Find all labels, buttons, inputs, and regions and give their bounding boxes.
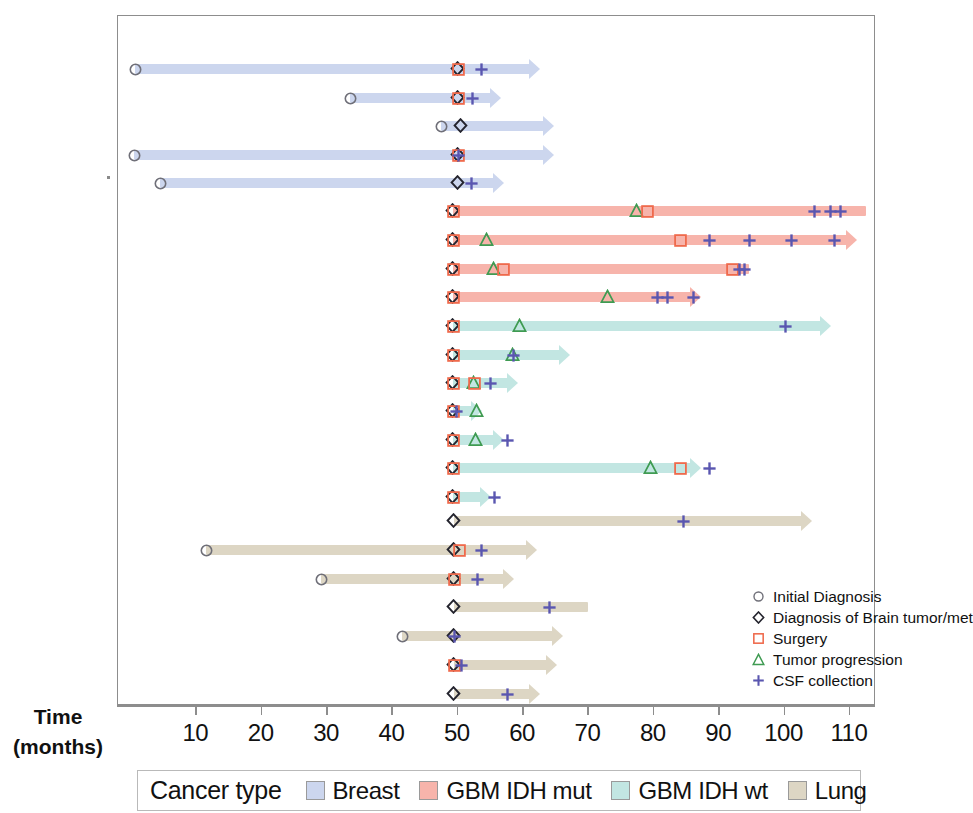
csf-collection-marker [464,176,479,191]
diamond-icon [749,611,768,624]
event-legend-label: CSF collection [773,672,873,690]
cancer-type-label: GBM IDH wt [638,777,767,805]
cancer-type-legend-item: Breast [306,777,400,805]
cancer-type-swatch [788,781,807,800]
csf-collection-marker [737,262,752,277]
swimmer-bar-arrowhead [559,345,570,365]
x-axis-tick [784,705,786,715]
event-legend-item: Diagnosis of Brain tumor/met [749,607,973,628]
swimmer-bar-arrowhead [526,540,537,560]
x-axis-tick-label: 100 [764,719,803,747]
swimmer-row [118,259,874,279]
event-legend-label: Diagnosis of Brain tumor/met [773,609,973,627]
surgery-marker [452,543,467,558]
surgery-marker [446,290,461,305]
initial-diagnosis-marker [314,572,329,587]
swimmer-bar-arrowhead [507,373,518,393]
axis-title: Time (months) [2,702,114,762]
tumor-progression-marker [600,289,615,304]
csf-collection-marker [451,148,466,163]
swimmer-bar-arrowhead [846,230,857,250]
event-legend-label: Initial Diagnosis [773,588,882,606]
swimmer-bar-arrowhead [820,316,831,336]
plus-icon [749,674,768,687]
tumor-progression-marker [512,318,527,333]
initial-diagnosis-marker [153,176,168,191]
event-legend: Initial DiagnosisDiagnosis of Brain tumo… [749,586,973,691]
surgery-marker [446,376,461,391]
swimmer-bar [135,64,531,74]
swimmer-bar [402,631,553,641]
cancer-type-legend-item: Lung [788,777,867,805]
swimmer-plot-panel: Initial DiagnosisDiagnosis of Brain tumo… [117,15,875,705]
swimmer-row [118,345,874,365]
cancer-type-label: Breast [333,777,400,805]
swimmer-bar-arrowhead [503,569,514,589]
csf-collection-marker [449,404,464,419]
swimmer-row [118,373,874,393]
csf-collection-marker [660,290,675,305]
x-axis-tick-label: 70 [575,719,601,747]
csf-collection-marker [784,233,799,248]
cancer-type-legend: Cancer type BreastGBM IDH mutGBM IDH wtL… [137,770,861,811]
brain-diagnosis-marker [453,118,468,133]
swimmer-row [118,116,874,136]
x-axis-tick-label: 20 [248,719,274,747]
surgery-marker [446,433,461,448]
swimmer-bar-arrowhead [543,116,554,136]
swimmer-bar-arrowhead [543,145,554,165]
swimmer-bar-arrowhead [490,88,501,108]
swimmer-row [118,145,874,165]
swimmer-row [118,540,874,560]
swimmer-bar [453,321,821,331]
surgery-marker [446,262,461,277]
swimmer-bar-arrowhead [552,626,563,646]
swimmer-row [118,430,874,450]
x-axis-tick [849,705,851,715]
csf-collection-marker [542,600,557,615]
axis-title-line2: (months) [2,732,114,762]
x-axis-tick [522,705,524,715]
axis-title-line1: Time [2,702,114,732]
cancer-type-legend-item: GBM IDH wt [611,777,767,805]
x-axis-tick [391,705,393,715]
cancer-type-swatch [611,781,630,800]
swimmer-bar [454,602,588,612]
swimmer-row [118,458,874,478]
triangle-icon [749,653,768,666]
swimmer-bar [160,178,494,188]
surgery-marker [446,490,461,505]
brain-diagnosis-marker [446,599,461,614]
swimmer-bar-arrowhead [493,173,504,193]
x-axis-tick [653,705,655,715]
surgery-marker [640,204,655,219]
brain-diagnosis-marker [446,513,461,528]
event-legend-label: Tumor progression [773,651,903,669]
surgery-marker [451,91,466,106]
csf-collection-marker [465,91,480,106]
csf-collection-marker [742,233,757,248]
stray-tick-mark [107,176,110,179]
square-icon [749,632,768,645]
swimmer-bar [134,150,544,160]
x-axis-tick-label: 40 [379,719,405,747]
x-axis-tick-label: 90 [705,719,731,747]
brain-diagnosis-marker [450,175,465,190]
surgery-marker [467,376,482,391]
swimmer-row [118,59,874,79]
x-axis-tick-label: 30 [313,719,339,747]
event-legend-item: Initial Diagnosis [749,586,973,607]
swimmer-bar-arrowhead [801,511,812,531]
csf-collection-marker [833,204,848,219]
surgery-marker [446,204,461,219]
surgery-marker [446,319,461,334]
swimmer-bar-arrowhead [529,684,540,704]
csf-collection-marker [506,348,521,363]
x-axis-tick [261,705,263,715]
x-axis-tick [457,705,459,715]
csf-collection-marker [483,376,498,391]
csf-collection-marker [676,514,691,529]
csf-collection-marker [778,319,793,334]
x-axis-tick [718,705,720,715]
x-axis-tick [195,705,197,715]
